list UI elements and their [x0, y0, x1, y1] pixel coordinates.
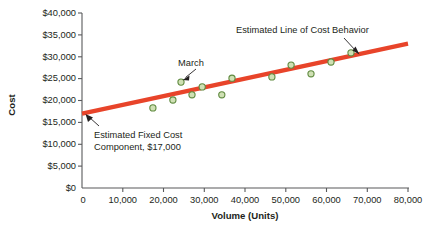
y-tick-label: $30,000	[42, 52, 76, 62]
data-point	[219, 92, 225, 98]
data-point	[269, 74, 275, 80]
data-point	[328, 59, 334, 65]
x-axis-tick-marks	[123, 188, 408, 192]
y-tick-label: $35,000	[42, 30, 76, 40]
x-tick-label: 30,000	[190, 195, 218, 205]
x-axis-tick-labels: 0 10,000 20,000 30,000 40,000 50,000 60,…	[80, 195, 422, 205]
arrowhead-icon	[183, 76, 190, 81]
cost-behavior-scatter-chart: Cost $40,000 $35,000 $30,000 $25,000 $20…	[0, 0, 439, 228]
x-tick-label: 40,000	[231, 195, 259, 205]
data-point	[170, 97, 176, 103]
x-tick-label: 50,000	[272, 195, 300, 205]
annotation-fixed-cost: Estimated Fixed Cost Component, $17,000	[86, 114, 183, 152]
y-tick-label: $25,000	[42, 73, 76, 83]
chart-svg: Cost $40,000 $35,000 $30,000 $25,000 $20…	[0, 0, 439, 228]
y-tick-label: $40,000	[42, 8, 76, 18]
data-point	[189, 92, 195, 98]
y-tick-label: $10,000	[42, 139, 76, 149]
x-tick-label: 60,000	[312, 195, 340, 205]
x-tick-label: 20,000	[149, 195, 177, 205]
data-point	[150, 105, 156, 111]
x-tick-label: 80,000	[394, 195, 422, 205]
annotation-march: March	[178, 58, 204, 81]
data-point	[199, 84, 205, 90]
annotation-fixed-cost-line2: Component, $17,000	[94, 142, 181, 152]
x-axis-title: Volume (Units)	[212, 210, 279, 221]
y-axis-tick-labels: $40,000 $35,000 $30,000 $25,000 $20,000 …	[42, 8, 76, 193]
data-point	[229, 75, 235, 81]
y-tick-label: $5,000	[48, 161, 76, 171]
x-tick-label: 70,000	[353, 195, 381, 205]
data-point	[308, 71, 314, 77]
data-point	[288, 62, 294, 68]
y-tick-label: $20,000	[42, 95, 76, 105]
annotation-cost-behavior-label: Estimated Line of Cost Behavior	[236, 25, 369, 35]
arrowhead-icon	[86, 114, 94, 122]
y-axis-title: Cost	[6, 94, 17, 116]
y-tick-label: $0	[66, 183, 76, 193]
annotation-march-label: March	[178, 58, 204, 68]
annotation-fixed-cost-line1: Estimated Fixed Cost	[94, 130, 183, 140]
y-tick-label: $15,000	[42, 117, 76, 127]
y-axis-tick-marks	[78, 13, 82, 166]
x-tick-label: 10,000	[109, 195, 137, 205]
x-tick-label: 0	[80, 195, 85, 205]
